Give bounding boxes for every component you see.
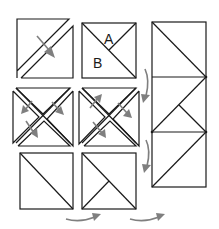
quarter-cut-square-1 [13, 88, 73, 146]
assembled-column [151, 22, 208, 187]
half-square-triangle [20, 153, 73, 209]
curved-arrow-down-2 [142, 140, 151, 173]
label-a: A [104, 31, 114, 47]
label-b: B [93, 55, 102, 71]
quarter-cut-square-2 [79, 88, 139, 146]
quilt-diagram: A B [0, 0, 219, 229]
arrow-right-2 [130, 213, 165, 221]
arrow-right-1 [66, 213, 101, 221]
curved-arrow-down-1 [141, 69, 150, 103]
hourglass-half [82, 153, 136, 209]
labeled-square: A B [82, 23, 136, 78]
cut-diagonal-square [17, 19, 73, 78]
